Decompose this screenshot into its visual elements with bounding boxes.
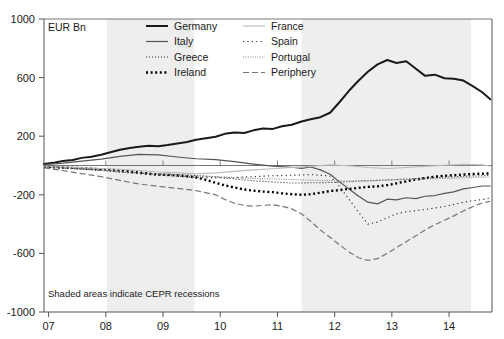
legend-label-france: France (271, 20, 304, 32)
y-tick-label: 1000 (11, 13, 35, 25)
line-chart: 1000600200-200-600-1000 0708091011121314… (0, 0, 504, 339)
y-tick-label: -200 (13, 189, 35, 201)
legend-label-periphery: Periphery (271, 66, 317, 78)
legend-label-greece: Greece (174, 51, 209, 63)
y-tick-label: -1000 (7, 306, 35, 318)
x-tick-label: 12 (329, 320, 341, 332)
legend-label-portugal: Portugal (271, 51, 310, 63)
legend-label-ireland: Ireland (174, 66, 206, 78)
x-tick-label: 09 (157, 320, 169, 332)
x-tick-label: 08 (100, 320, 112, 332)
y-axis-unit-label: EUR Bn (48, 21, 86, 33)
legend-label-italy: Italy (174, 35, 194, 47)
y-tick-label: 200 (17, 130, 35, 142)
chart-container: 1000600200-200-600-1000 0708091011121314… (0, 0, 504, 339)
y-tick-label: 600 (17, 72, 35, 84)
chart-note: Shaded areas indicate CEPR recessions (48, 288, 220, 299)
x-tick-label: 11 (272, 320, 283, 332)
x-tick-label: 07 (42, 320, 54, 332)
x-tick-label: 14 (443, 320, 455, 332)
legend-label-germany: Germany (174, 20, 218, 32)
x-tick-label: 13 (386, 320, 398, 332)
y-tick-label: -600 (13, 247, 35, 259)
legend-label-spain: Spain (271, 35, 298, 47)
x-tick-label: 10 (214, 320, 226, 332)
